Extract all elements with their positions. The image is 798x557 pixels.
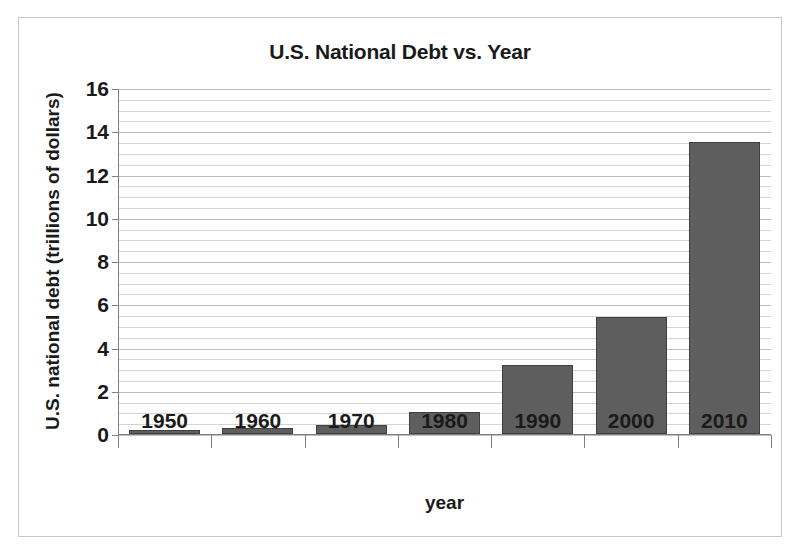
x-axis-tick <box>678 435 679 448</box>
y-axis-tick-label: 12 <box>86 164 109 188</box>
gridline-minor <box>118 165 771 166</box>
y-axis-tick-label: 4 <box>97 337 109 361</box>
x-axis-tick <box>491 435 492 448</box>
plot-area: 0246810121416 <box>118 89 771 435</box>
y-axis-tick-label: 8 <box>97 250 109 274</box>
gridline-minor <box>118 154 771 155</box>
x-axis-tick-label: 1950 <box>141 409 188 433</box>
x-axis-tick-label: 1960 <box>235 409 282 433</box>
x-axis-tick-label: 1990 <box>514 409 561 433</box>
gridline-minor <box>118 359 771 360</box>
gridline-minor <box>118 230 771 231</box>
x-axis-tick-label: 1970 <box>328 409 375 433</box>
gridline-minor <box>118 403 771 404</box>
y-axis-tick-label: 0 <box>97 423 109 447</box>
x-axis-line <box>118 434 771 435</box>
gridline-major <box>118 349 771 350</box>
gridline-major <box>118 435 771 436</box>
bar <box>689 142 760 434</box>
gridline-minor <box>118 284 771 285</box>
y-axis-tick-label: 10 <box>86 207 109 231</box>
x-axis-tick <box>305 435 306 448</box>
gridline-major <box>118 89 771 90</box>
gridline-major <box>118 132 771 133</box>
gridline-minor <box>118 327 771 328</box>
gridline-minor <box>118 273 771 274</box>
y-axis-tick-label: 2 <box>97 380 109 404</box>
gridline-minor <box>118 186 771 187</box>
gridline-major <box>118 176 771 177</box>
gridline-major <box>118 262 771 263</box>
chart-title: U.S. National Debt vs. Year <box>19 40 781 64</box>
gridline-minor <box>118 240 771 241</box>
y-axis-line <box>118 89 119 435</box>
x-axis-tick <box>211 435 212 448</box>
x-axis-tick <box>584 435 585 448</box>
gridline-minor <box>118 370 771 371</box>
x-axis-tick <box>771 435 772 448</box>
gridline-major <box>118 305 771 306</box>
gridline-major <box>118 392 771 393</box>
y-axis-tick-label: 6 <box>97 293 109 317</box>
gridline-minor <box>118 316 771 317</box>
x-axis-tick <box>398 435 399 448</box>
gridline-minor <box>118 197 771 198</box>
x-axis-tick <box>118 435 119 448</box>
x-axis-tick-label: 2000 <box>608 409 655 433</box>
gridline-minor <box>118 294 771 295</box>
gridline-minor <box>118 121 771 122</box>
y-axis-tick-label: 14 <box>86 120 109 144</box>
x-axis-tick-label: 2010 <box>701 409 748 433</box>
gridline-minor <box>118 111 771 112</box>
x-axis-title: year <box>118 492 771 514</box>
x-axis-tick-label: 1980 <box>421 409 468 433</box>
gridline-minor <box>118 338 771 339</box>
y-axis-title: U.S. national debt (trillions of dollars… <box>42 81 64 441</box>
gridline-major <box>118 219 771 220</box>
y-axis-tick-label: 16 <box>86 77 109 101</box>
chart-figure-frame: U.S. National Debt vs. Year U.S. nationa… <box>18 17 782 537</box>
gridline-minor <box>118 208 771 209</box>
gridline-minor <box>118 381 771 382</box>
gridline-minor <box>118 100 771 101</box>
gridline-minor <box>118 251 771 252</box>
gridline-minor <box>118 143 771 144</box>
